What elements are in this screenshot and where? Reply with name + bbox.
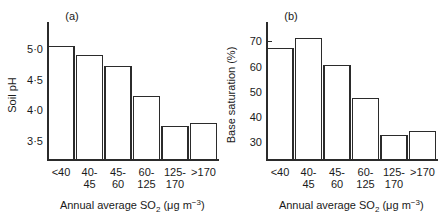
x-axis-title: Annual average SO2 (μg m−3) [60, 198, 205, 214]
x-axis-category-label-line2: 125 [137, 178, 155, 190]
y-axis-tick-label: 30 [250, 136, 262, 148]
chart-panel-b: (b)7060504030<4040-4545-6060-125125-170>… [219, 0, 438, 224]
x-axis-category-label-line2: 60 [112, 178, 124, 190]
bar [48, 46, 74, 160]
bar [191, 124, 217, 160]
x-axis-category-label: >170 [191, 166, 216, 178]
bar-chart-svg-b: (b)7060504030<4040-4545-6060-125125-170>… [219, 0, 438, 224]
x-axis-category-label: >170 [410, 166, 435, 178]
y-axis-tick-label: 70 [250, 35, 262, 47]
bar [267, 49, 293, 160]
y-axis-title: Soil pH [6, 77, 18, 113]
bar [410, 132, 436, 160]
y-axis-tick-label: 4·0 [27, 104, 43, 116]
x-axis-category-label-line2: 125 [356, 178, 374, 190]
x-axis-category-label: 125- [383, 166, 405, 178]
bar [134, 96, 160, 160]
bar [381, 135, 407, 160]
figure-container: (a)5·04·54·03·5<4040-4545-6060-125125-17… [0, 0, 438, 224]
y-axis-tick-label: 60 [250, 61, 262, 73]
y-axis-tick-label: 50 [250, 86, 262, 98]
bar [162, 127, 188, 160]
x-axis-category-label: 45- [329, 166, 345, 178]
chart-panel-a: (a)5·04·54·03·5<4040-4545-6060-125125-17… [0, 0, 219, 224]
x-axis-category-label-line2: 45 [83, 178, 95, 190]
bar [105, 66, 131, 160]
panel-tag: (b) [284, 10, 297, 22]
bar [77, 56, 103, 160]
y-axis-tick-label: 4·5 [27, 74, 43, 86]
x-axis-category-label: 60- [358, 166, 374, 178]
x-axis-category-label-line2: 45 [302, 178, 314, 190]
y-axis-tick-label: 40 [250, 111, 262, 123]
x-axis-category-label: 60- [139, 166, 155, 178]
y-axis-title: Base saturation (%) [225, 47, 237, 144]
x-axis-category-label: 40- [82, 166, 98, 178]
x-axis-category-label-line2: 170 [385, 178, 403, 190]
x-axis-category-label-line2: 170 [166, 178, 184, 190]
x-axis-category-label: 45- [110, 166, 126, 178]
x-axis-category-label: 125- [164, 166, 186, 178]
bar-chart-svg-a: (a)5·04·54·03·5<4040-4545-6060-125125-17… [0, 0, 219, 224]
y-axis-tick-label: 5·0 [27, 43, 43, 55]
x-axis-category-label-line2: 60 [331, 178, 343, 190]
bar [353, 98, 379, 160]
y-axis-tick-label: 3·5 [27, 135, 43, 147]
bar [296, 39, 322, 160]
x-axis-category-label: <40 [271, 166, 290, 178]
x-axis-title: Annual average SO2 (μg m−3) [279, 198, 424, 214]
x-axis-category-label: 40- [301, 166, 317, 178]
panel-tag: (a) [65, 10, 78, 22]
bar [324, 66, 350, 160]
x-axis-category-label: <40 [52, 166, 71, 178]
